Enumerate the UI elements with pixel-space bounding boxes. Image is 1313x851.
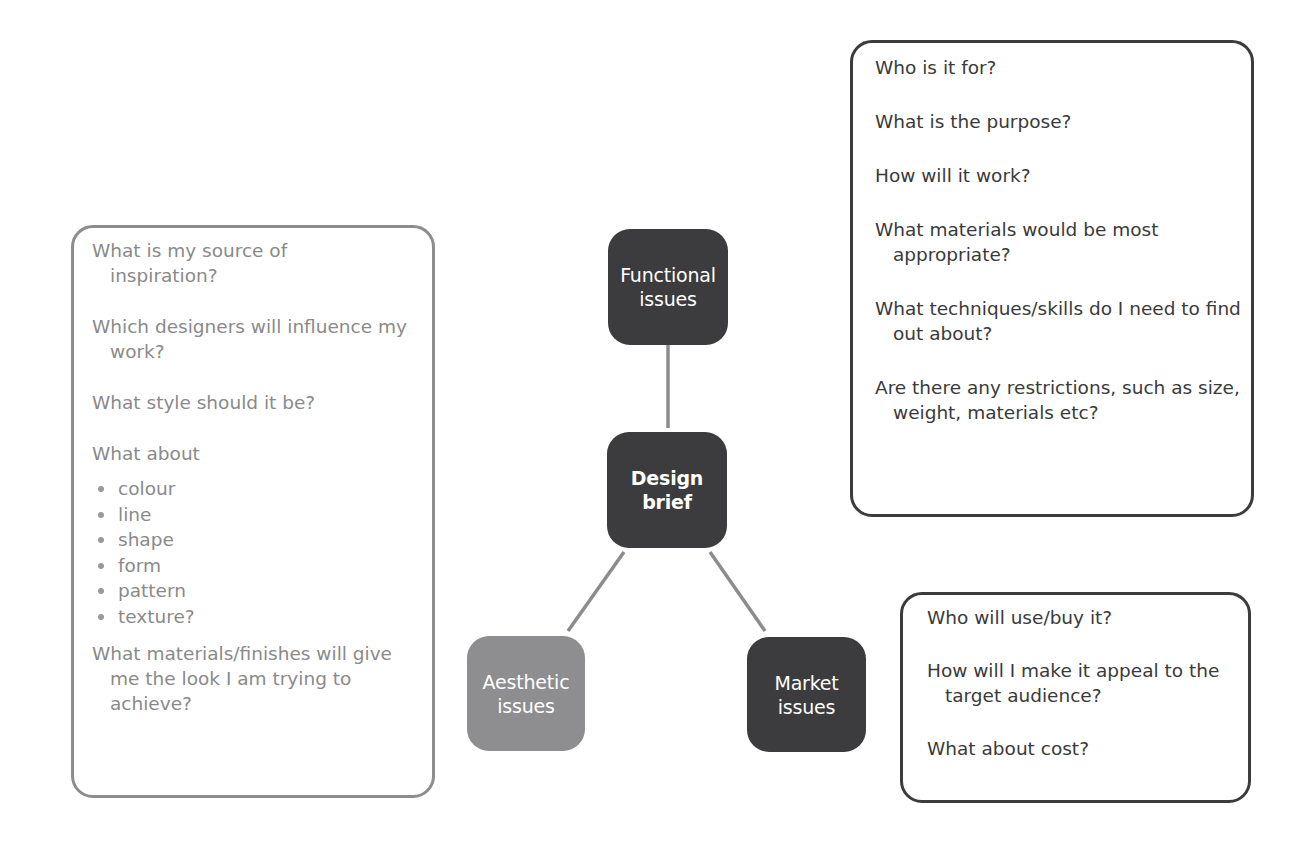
functional-question-2: What is the purpose?: [875, 109, 1241, 134]
bullet-item: shape: [92, 527, 422, 553]
aesthetic-question-1: What is my source of inspiration?: [92, 238, 350, 288]
market-question-1: Who will use/buy it?: [927, 605, 1238, 630]
functional-issues-node: Functional issues: [608, 229, 728, 345]
market-label-line2: issues: [774, 695, 838, 719]
functional-question-3: How will it work?: [875, 163, 1241, 188]
market-question-3: What about cost?: [927, 736, 1238, 761]
functional-question-1: Who is it for?: [875, 55, 1241, 80]
bullet-item: form: [92, 553, 422, 579]
bullet-item: line: [92, 502, 422, 528]
aesthetic-label-line1: Aesthetic: [483, 670, 570, 694]
functional-question-5: What techniques/skills do I need to find…: [875, 296, 1253, 346]
aesthetic-label-line2: issues: [483, 694, 570, 718]
aesthetic-question-4: What about: [92, 441, 422, 466]
connector-aesthetic: [568, 552, 624, 631]
market-label-line1: Market: [774, 671, 838, 695]
connector-market: [710, 552, 765, 631]
aesthetic-questions-panel: What is my source of inspiration? Which …: [71, 225, 435, 798]
design-brief-node: Design brief: [607, 432, 727, 548]
bullet-item: colour: [92, 476, 422, 502]
functional-question-6: Are there any restrictions, such as size…: [875, 375, 1263, 425]
market-question-2: How will I make it appeal to the target …: [927, 658, 1245, 708]
market-questions-panel: Who will use/buy it? How will I make it …: [900, 592, 1251, 803]
functional-label-line2: issues: [620, 287, 716, 311]
bullet-item: pattern: [92, 578, 422, 604]
aesthetic-question-5: What materials/finishes will give me the…: [92, 641, 420, 716]
design-brief-label-line2: brief: [631, 490, 703, 514]
aesthetic-issues-node: Aesthetic issues: [467, 636, 585, 751]
bullet-item: texture?: [92, 604, 422, 630]
aesthetic-question-3: What style should it be?: [92, 390, 422, 415]
functional-questions-panel: Who is it for? What is the purpose? How …: [850, 40, 1254, 517]
functional-question-4: What materials would be most appropriate…: [875, 217, 1233, 267]
aesthetic-question-2: Which designers will influence my work?: [92, 314, 420, 364]
aesthetic-bullet-list: colour line shape form pattern texture?: [92, 476, 422, 629]
functional-label-line1: Functional: [620, 263, 716, 287]
design-brief-label-line1: Design: [631, 466, 703, 490]
market-issues-node: Market issues: [747, 637, 866, 752]
